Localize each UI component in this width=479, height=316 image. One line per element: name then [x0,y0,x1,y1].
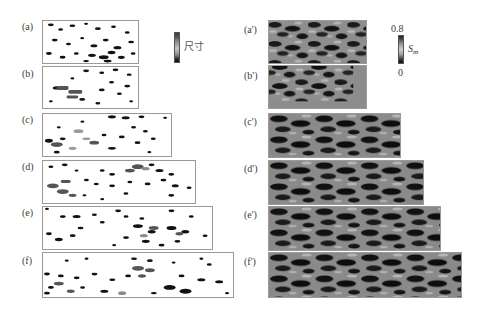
sm-field-graphic [269,21,366,63]
size-map-graphic [43,114,171,156]
panel-d-size-map [42,160,196,204]
size-map-graphic [43,161,195,203]
panel-label-a: (a) [22,22,33,32]
sm-field-graphic [269,66,366,108]
sm-field-graphic [269,161,423,204]
sm-subscript: m [413,48,418,56]
panel-label-e: (e) [22,208,33,218]
sm-field-graphic [269,253,461,297]
size-map-graphic [43,67,138,108]
size-map-graphic [43,207,212,249]
panel-label-c: (c) [22,115,33,125]
size-colorbar [174,32,180,63]
size-map-graphic [43,253,233,297]
sm-field-graphic [269,207,440,250]
panel-label-e-prime: (e') [244,210,257,220]
sm-colorbar-label: Sm [408,44,418,57]
sm-field-graphic [269,114,400,157]
panel-c-prime-sm-map [268,113,401,158]
panel-label-f: (f) [22,256,32,266]
panel-label-b-prime: (b') [244,71,257,81]
panel-c-size-map [42,113,172,157]
sm-colorbar-max: 0.8 [391,24,404,34]
panel-f-size-map [42,252,234,298]
panel-d-prime-sm-map [268,160,424,205]
panel-label-d-prime: (d') [244,164,257,174]
panel-a-prime-sm-map [268,20,367,64]
panel-label-b: (b) [22,69,34,79]
panel-b-prime-sm-map [268,65,367,109]
sm-colorbar [398,35,404,64]
panel-label-a-prime: (a') [244,25,257,35]
panel-label-f-prime: (f') [244,257,256,267]
panel-e-prime-sm-map [268,206,441,251]
panel-e-size-map [42,206,213,250]
size-colorbar-label: 尺寸 [184,42,204,52]
size-map-graphic [43,21,138,63]
sm-colorbar-min: 0 [398,68,403,78]
panel-f-prime-sm-map [268,252,462,298]
panel-b-size-map [42,66,139,109]
panel-label-c-prime: (c') [244,117,257,127]
panel-label-d: (d) [22,162,34,172]
panel-a-size-map [42,20,139,64]
